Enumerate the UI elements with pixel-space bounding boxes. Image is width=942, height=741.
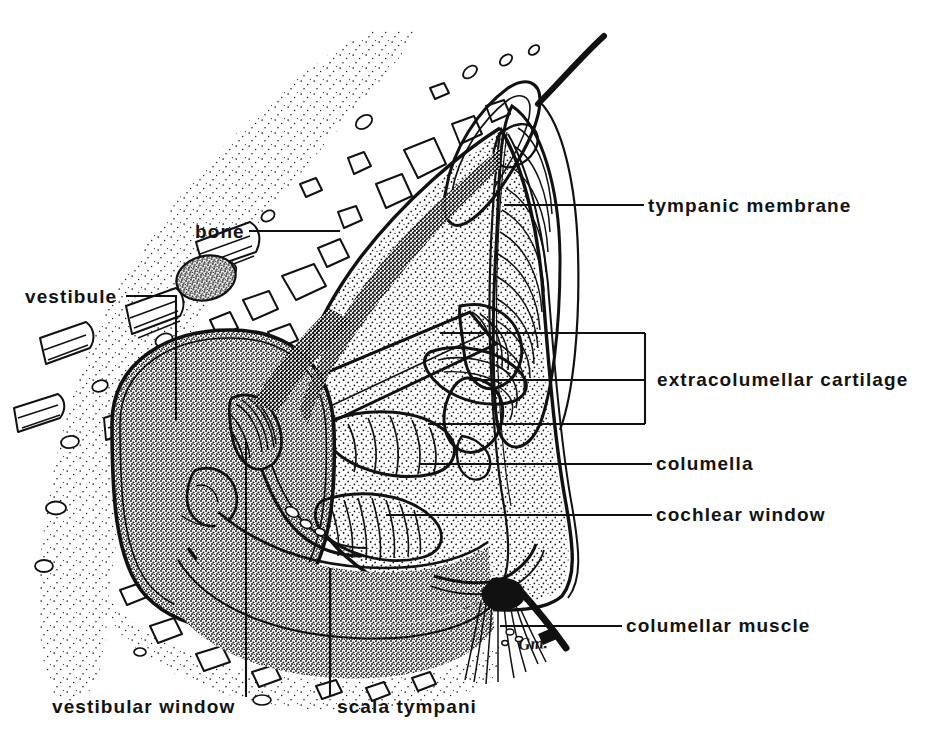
label-extracolumellar-cartilage: extracolumellar cartilage: [657, 370, 908, 389]
label-vestibular-window: vestibular window: [52, 697, 235, 716]
label-columellar-muscle: columellar muscle: [626, 616, 811, 635]
label-tympanic-membrane: tympanic membrane: [648, 196, 852, 215]
label-columella: columella: [656, 454, 754, 473]
figure-root: bone vestibule tympanic membrane extraco…: [0, 0, 942, 741]
label-scala-tympani: scala tympani: [337, 697, 477, 716]
label-cochlear-window: cochlear window: [656, 505, 826, 524]
label-bone: bone: [195, 222, 245, 241]
artist-signature: Gm.: [517, 633, 548, 655]
label-vestibule: vestibule: [25, 287, 117, 306]
